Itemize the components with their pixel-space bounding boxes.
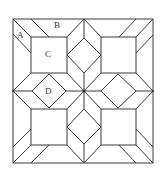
- quilt-lines: [0, 0, 163, 172]
- label-c: C: [45, 50, 51, 59]
- label-b: B: [54, 21, 60, 30]
- square-bottom-left: [31, 109, 67, 145]
- diamond-right: [101, 74, 136, 108]
- diamond-top: [67, 38, 101, 73]
- square-top-right: [101, 37, 136, 73]
- quilt-block-diagram: A B C D: [0, 0, 163, 172]
- center-point: [83, 90, 86, 93]
- diamond-bottom: [67, 109, 101, 144]
- label-d: D: [45, 87, 52, 96]
- square-bottom-right: [101, 109, 136, 145]
- label-a: A: [17, 31, 24, 40]
